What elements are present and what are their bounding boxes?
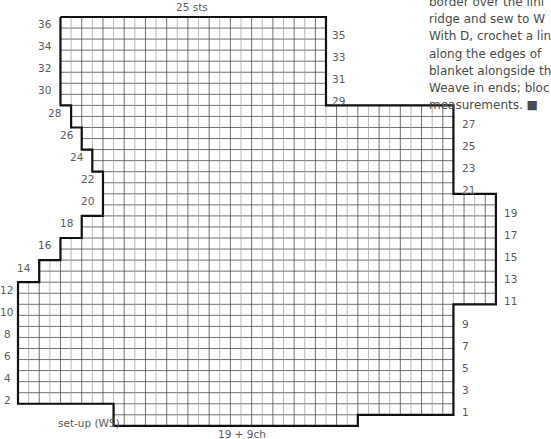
left-row-number: 10 [0,307,13,318]
right-row-number: 21 [462,185,475,196]
instruction-line: border over the lini [429,0,549,11]
instruction-line: measurements. ■ [429,97,549,114]
left-row-number: 26 [60,130,73,141]
chart-width-label: 25 sts [176,2,208,13]
left-row-number: 22 [81,174,94,185]
left-row-number: 14 [17,263,30,274]
left-row-number: 24 [70,152,83,163]
right-row-number: 13 [504,274,517,285]
instruction-line: along the edges of [429,46,549,63]
setup-row-label: set-up (WS) [58,418,120,429]
chart-bottom-label: 19 + 9ch [218,429,266,439]
right-row-number: 1 [462,407,469,418]
left-row-number: 4 [4,373,11,384]
right-row-number: 11 [504,296,517,307]
left-row-number: 16 [38,240,51,251]
right-row-number: 31 [332,74,345,85]
instruction-line: With D, crochet a lin [429,28,549,45]
left-row-number: 12 [0,285,13,296]
pattern-instructions-text: border over the lini ridge and sew to W … [429,0,549,114]
right-row-number: 5 [462,363,469,374]
right-row-number: 15 [504,252,517,263]
right-row-number: 19 [504,208,517,219]
left-row-number: 18 [60,218,73,229]
left-row-number: 28 [48,108,61,119]
left-row-number: 32 [38,63,51,74]
left-row-number: 34 [38,41,51,52]
right-row-number: 35 [332,30,345,41]
right-row-number: 25 [462,141,475,152]
right-row-number: 17 [504,230,517,241]
right-row-number: 7 [462,341,469,352]
instruction-line: ridge and sew to W [429,11,549,28]
left-row-number: 30 [38,85,51,96]
right-row-number: 9 [462,319,469,330]
right-row-number: 23 [462,163,475,174]
instruction-line: Weave in ends; bloc [429,80,549,97]
right-row-number: 27 [462,119,475,130]
grid-lines [18,17,496,426]
right-row-number: 29 [332,96,345,107]
left-row-number: 2 [4,395,11,406]
chart-outline [18,17,496,426]
left-row-number: 20 [81,196,94,207]
left-row-number: 36 [38,19,51,30]
right-row-number: 3 [462,385,469,396]
instruction-line: blanket alongside th [429,63,549,80]
left-row-number: 8 [4,329,11,340]
right-row-number: 33 [332,52,345,63]
left-row-number: 6 [4,351,11,362]
